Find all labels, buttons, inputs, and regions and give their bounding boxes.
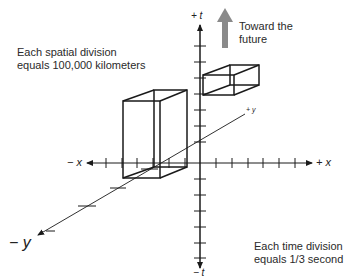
plus-y-label: + y	[246, 106, 256, 113]
future-arrow-icon	[217, 8, 233, 48]
minus-t-label: − t	[193, 267, 204, 278]
spatial-note-line-1: Each spatial division	[17, 46, 145, 59]
plus-x-label: + x	[316, 156, 331, 168]
plus-t-label: + t	[191, 10, 202, 21]
minus-y-label: − y	[9, 234, 31, 252]
time-note-line-2: equals 1/3 second	[254, 253, 343, 266]
spacetime-diagram	[0, 0, 348, 280]
small-box	[203, 65, 259, 95]
time-note-line-1: Each time division	[254, 240, 343, 253]
minus-x-label: − x	[67, 156, 82, 168]
time-division-note: Each time division equals 1/3 second	[254, 240, 343, 266]
spatial-division-note: Each spatial division equals 100,000 kil…	[17, 46, 145, 72]
future-note-line-2: future	[239, 33, 293, 46]
future-note-line-1: Toward the	[239, 20, 293, 33]
future-note: Toward the future	[239, 20, 293, 46]
y-axis	[38, 114, 245, 235]
t-axis	[194, 25, 206, 268]
spatial-note-line-2: equals 100,000 kilometers	[17, 59, 145, 72]
large-box	[123, 90, 187, 178]
